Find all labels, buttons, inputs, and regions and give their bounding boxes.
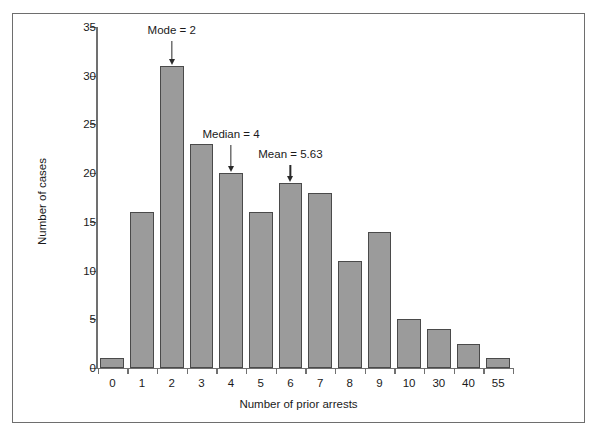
bar-30 [427,329,451,368]
x-tick-label-40: 40 [462,377,475,390]
x-tick [187,368,188,374]
annotation-label-mode: Mode = 2 [148,24,196,37]
y-tick-label-25: 25 [62,119,96,130]
x-tick-label-7: 7 [317,377,323,390]
x-tick [335,368,336,374]
x-tick [424,368,425,374]
x-tick-label-5: 5 [258,377,264,390]
bar-0 [100,358,124,368]
y-tick-label-0: 0 [62,363,96,374]
x-axis-title: Number of prior arrests [0,398,597,410]
bar-2 [160,66,184,368]
y-axis-title: Number of cases [36,158,48,245]
annotation-arrow-shaft [230,145,231,166]
x-tick-label-55: 55 [492,377,505,390]
x-tick [246,368,247,374]
bar-7 [308,193,332,368]
plot-area: 0 5 10 15 20 25 30 35 012345678910304055… [0,0,597,438]
bar-1 [130,212,154,368]
x-tick [276,368,277,374]
x-tick-label-10: 10 [403,377,416,390]
x-tick [216,368,217,374]
x-tick [454,368,455,374]
bar-8 [338,261,362,368]
y-tick-label-5: 5 [62,314,96,325]
annotation-arrow-head [287,176,293,182]
x-tick-label-0: 0 [109,377,115,390]
x-tick-label-8: 8 [347,377,353,390]
bar-10 [397,319,421,368]
annotation-arrow-shaft [290,165,291,176]
y-axis-line [96,27,98,369]
y-tick-label-15: 15 [62,217,96,228]
annotation-arrow-head [169,59,175,65]
x-tick-label-30: 30 [432,377,445,390]
y-tick-label-10: 10 [62,266,96,277]
y-tick-label-20: 20 [62,168,96,179]
x-tick [157,368,158,374]
x-tick [127,368,128,374]
x-tick-label-1: 1 [139,377,145,390]
x-tick-label-6: 6 [287,377,293,390]
bar-40 [457,344,481,368]
annotation-arrow-head [228,166,234,172]
annotation-arrow-shaft [171,41,172,59]
y-tick-label-30: 30 [62,71,96,82]
x-tick [305,368,306,374]
x-tick [365,368,366,374]
bar-5 [249,212,273,368]
annotation-label-mean: Mean = 5.63 [258,148,322,161]
y-tick-label-35: 35 [62,22,96,33]
bar-3 [190,144,214,368]
x-tick-label-4: 4 [228,377,234,390]
x-tick [483,368,484,374]
x-tick [513,368,514,374]
figure-canvas: 0 5 10 15 20 25 30 35 012345678910304055… [0,0,597,438]
x-tick [98,368,99,374]
x-tick [394,368,395,374]
bar-4 [219,173,243,368]
x-tick-label-3: 3 [198,377,204,390]
x-tick-label-9: 9 [376,377,382,390]
bar-9 [368,232,392,368]
x-tick-label-2: 2 [168,377,174,390]
bar-6 [279,183,303,368]
annotation-label-median: Median = 4 [202,128,259,141]
bar-55 [486,358,510,368]
